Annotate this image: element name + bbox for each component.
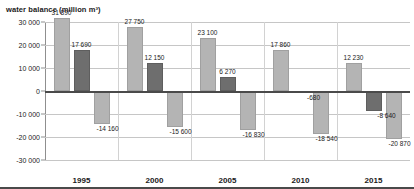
- y-axis-tick-label: -30 000: [2, 157, 40, 164]
- bar-balance-2005: [220, 77, 236, 91]
- bar-value-label: -18 540: [305, 135, 349, 142]
- bar-value-label: -15 600: [159, 128, 203, 135]
- bar-inflow-1995: [54, 18, 70, 91]
- bar-value-label: -8 640: [365, 112, 409, 119]
- bar-balance-2015: [366, 91, 382, 111]
- water-balance-chart: water balance (million m³) 30 00020 0001…: [0, 0, 414, 189]
- bar-value-label: -680: [292, 94, 336, 101]
- bar-value-label: -16 830: [232, 131, 276, 138]
- bar-value-label: -20 870: [378, 140, 414, 147]
- bar-balance-2000: [147, 63, 163, 91]
- zero-axis-line: [45, 91, 410, 93]
- bar-value-label: -14 160: [86, 125, 130, 132]
- y-axis-tick-label: -10 000: [2, 111, 40, 118]
- y-axis-tick-label: 0: [2, 88, 40, 95]
- bar-inflow-2010: [273, 50, 289, 91]
- bar-value-label: 12 230: [332, 54, 376, 61]
- bar-value-label: 6 270: [206, 68, 250, 75]
- y-axis-tick-label: 20 000: [2, 42, 40, 49]
- x-axis-category-label: 2000: [118, 176, 191, 185]
- bar-value-label: 27 750: [113, 18, 157, 25]
- x-axis-category-label: 1995: [45, 176, 118, 185]
- bar-value-label: 12 150: [133, 54, 177, 61]
- bar-inflow-2015: [346, 63, 362, 91]
- bar-value-label: 17 690: [60, 41, 104, 48]
- x-axis-category-label: 2015: [337, 176, 410, 185]
- bar-value-label: 17 860: [259, 41, 303, 48]
- bar-outflow-2000: [167, 91, 183, 127]
- bar-value-label: 31 890: [40, 9, 84, 16]
- bar-inflow-2005: [200, 38, 216, 91]
- y-axis-tick-label: 30 000: [2, 19, 40, 26]
- y-axis-tick-label: -20 000: [2, 134, 40, 141]
- bar-outflow-2005: [240, 91, 256, 130]
- bar-value-label: 23 100: [186, 29, 230, 36]
- bar-balance-1995: [74, 50, 90, 91]
- y-axis-tick-label: 10 000: [2, 65, 40, 72]
- plot-area: 30 00020 00010 0000-10 000-20 000-30 000…: [45, 22, 410, 160]
- gridline: [45, 160, 410, 161]
- x-axis-category-label: 2005: [191, 176, 264, 185]
- x-axis-category-label: 2010: [264, 176, 337, 185]
- bar-outflow-1995: [94, 91, 110, 124]
